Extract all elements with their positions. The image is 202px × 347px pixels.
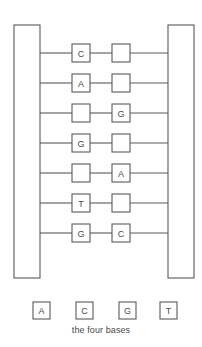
base-letter-row5-right: A — [118, 169, 124, 179]
dna-diagram: CAGGATGC ACGT the four bases — [0, 0, 202, 347]
base-letter-row2-left: A — [78, 79, 84, 89]
dna-ladder-svg: CAGGATGC ACGT — [0, 0, 202, 347]
legend-letter-a: A — [38, 306, 44, 316]
base-letter-row7-right: C — [118, 229, 125, 239]
base-box-row1-right[interactable] — [112, 44, 130, 62]
base-letter-row6-left: T — [78, 199, 84, 209]
backbone-group — [14, 25, 194, 278]
base-box-row3-left[interactable] — [72, 104, 90, 122]
base-letter-row7-left: G — [77, 229, 84, 239]
base-box-row6-right[interactable] — [112, 194, 130, 212]
base-box-row5-left[interactable] — [72, 164, 90, 182]
base-letter-row1-left: C — [78, 49, 85, 59]
base-letter-row4-left: G — [77, 139, 84, 149]
rung-line-group — [40, 53, 168, 233]
legend-group: ACGT — [33, 302, 177, 319]
base-box-row4-right[interactable] — [112, 134, 130, 152]
backbone-strand-left — [14, 25, 40, 278]
base-box-row2-right[interactable] — [112, 74, 130, 92]
legend-letter-c: C — [81, 306, 88, 316]
legend-letter-g: G — [124, 306, 131, 316]
legend-letter-t: T — [166, 306, 172, 316]
caption-label: the four bases — [0, 324, 202, 336]
base-letter-row3-right: G — [117, 109, 124, 119]
backbone-strand-right — [168, 25, 194, 278]
